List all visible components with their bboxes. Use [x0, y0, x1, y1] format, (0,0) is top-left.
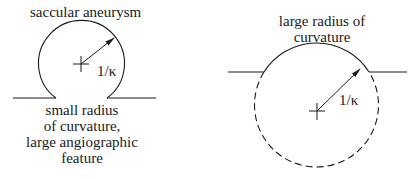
- title-line: large radius of: [272, 13, 372, 29]
- saccular-aneurysm-diagram: [13, 20, 156, 98]
- left-radius-label: 1/κ: [97, 63, 116, 79]
- radius-arrow: [81, 38, 114, 64]
- title-line: curvature: [272, 29, 372, 45]
- left-caption: small radius of curvature, large angiogr…: [22, 102, 142, 166]
- right-title: large radius of curvature: [272, 13, 372, 45]
- solid-arc: [264, 43, 369, 72]
- caption-line: large angiographic: [22, 134, 142, 150]
- caption-line: small radius: [22, 102, 142, 118]
- left-title: saccular aneurysm: [30, 4, 141, 20]
- caption-line: of curvature,: [22, 118, 142, 134]
- large-radius-diagram: [228, 43, 407, 167]
- right-radius-label: 1/κ: [339, 92, 358, 108]
- caption-line: feature: [22, 150, 142, 166]
